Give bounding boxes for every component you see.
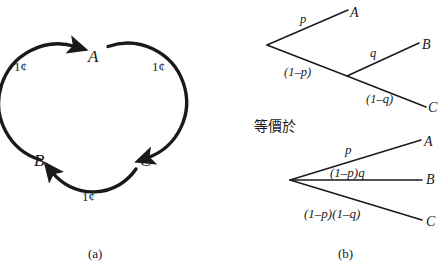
- tree-top-leaf-A: A: [350, 6, 359, 20]
- tree-top-label-1minusq: (1–q): [366, 93, 393, 106]
- cycle-node-C: C: [140, 152, 151, 169]
- tree-bottom-label-p: p: [345, 143, 352, 156]
- tree-bottom-label-1minuspq: (1–p)q: [330, 166, 365, 179]
- tree-top-leaf-B: B: [422, 38, 431, 52]
- tree-bottom-leaf-A: A: [424, 135, 433, 149]
- cycle-node-A: A: [88, 48, 98, 65]
- tree-top-label-q: q: [370, 47, 376, 60]
- tree-top-label-1minusp: (1–p): [284, 66, 311, 79]
- caption-b: (b): [338, 247, 353, 260]
- tree-top-edge-p: [267, 10, 348, 45]
- cycle-cost-label-BA: 1¢: [14, 60, 27, 73]
- tree-bottom-leaf-B: B: [426, 173, 435, 187]
- tree-bottom-label-1minusp1minusq: (1–p)(1–q): [304, 207, 360, 220]
- edge-B-to-A: [0, 44, 76, 160]
- tree-top: [267, 10, 426, 107]
- figure-container: A B C 1¢ 1¢ 1¢ (a) A B C p (1–p) q (1–q)…: [0, 0, 444, 274]
- edge-A-to-C: [108, 43, 187, 158]
- cycle-cost-label-AC: 1¢: [152, 60, 165, 73]
- tree-top-label-p: p: [300, 13, 306, 26]
- tree-top-leaf-C: C: [428, 101, 437, 115]
- equivalence-text: 等價於: [254, 119, 296, 133]
- tree-top-edge-q: [347, 43, 419, 76]
- cycle-cost-label-CB: 1¢: [82, 190, 95, 203]
- figure-vector-layer: [0, 0, 444, 274]
- cycle-node-B: B: [34, 152, 44, 169]
- tree-bottom-leaf-C: C: [426, 215, 435, 229]
- caption-a: (a): [88, 247, 102, 260]
